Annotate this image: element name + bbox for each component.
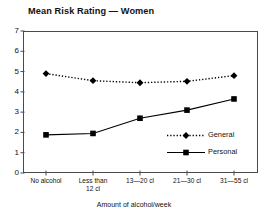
data-point-personal bbox=[43, 132, 49, 138]
data-point-general bbox=[184, 78, 191, 85]
data-point-personal bbox=[90, 131, 96, 137]
data-point-personal bbox=[231, 96, 237, 102]
legend-marker bbox=[183, 150, 189, 156]
legend-label: Personal bbox=[208, 146, 237, 157]
data-point-general bbox=[43, 70, 50, 77]
legend-item-general[interactable]: General bbox=[166, 128, 252, 142]
data-point-personal bbox=[184, 107, 190, 113]
legend-swatch-personal bbox=[166, 145, 206, 158]
legend-swatch-general bbox=[166, 128, 206, 141]
series-overlay bbox=[0, 0, 268, 213]
legend-label: General bbox=[208, 129, 234, 140]
data-point-general bbox=[137, 79, 144, 86]
chart-legend: GeneralPersonal bbox=[166, 128, 252, 164]
data-point-general bbox=[90, 77, 97, 84]
data-point-general bbox=[231, 72, 238, 79]
chart-container: Mean Risk Rating — Women 01234567 No alc… bbox=[0, 0, 268, 213]
x-axis-title: Amount of alcohol/week bbox=[0, 201, 268, 208]
legend-item-personal[interactable]: Personal bbox=[166, 145, 252, 159]
data-point-personal bbox=[137, 115, 143, 121]
legend-marker bbox=[183, 132, 190, 139]
